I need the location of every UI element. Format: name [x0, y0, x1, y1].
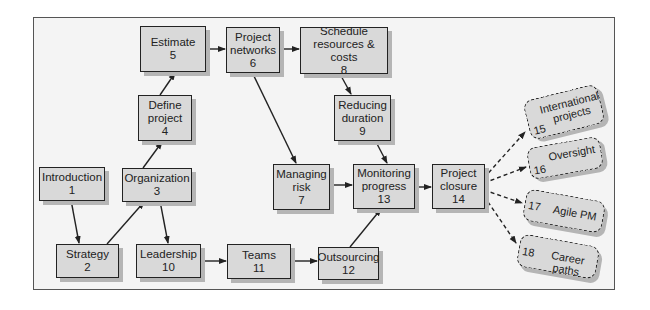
node-project-networks: Project networks 6 [226, 27, 280, 73]
node-label: Estimate [151, 36, 196, 49]
node-number: 11 [253, 262, 265, 275]
node-number: 8 [341, 64, 347, 77]
node-label-line: Schedule [320, 25, 368, 38]
node-reducing-duration: Reducing duration 9 [334, 95, 391, 141]
node-monitoring-progress: Monitoring progress 13 [353, 164, 415, 209]
node-project-closure: Project closure 14 [432, 164, 485, 209]
node-number: 7 [298, 194, 304, 207]
node-number: 10 [162, 261, 175, 274]
node-label-line: risk [293, 181, 311, 194]
node-number: 17 [528, 199, 542, 213]
node-number: 4 [162, 125, 168, 138]
node-label-line: closure [440, 180, 477, 193]
node-label: Introduction [42, 171, 102, 184]
node-schedule-resources: Schedule resources & costs 8 [300, 27, 388, 74]
node-label: Leadership [140, 248, 197, 261]
node-number: 2 [84, 261, 90, 274]
node-label-line: resources & costs [301, 38, 387, 64]
node-label-line: Define [148, 99, 181, 112]
node-number: 5 [170, 49, 176, 62]
node-label-line: networks [230, 44, 276, 57]
node-number: 9 [359, 125, 365, 138]
node-teams: Teams 11 [227, 244, 291, 279]
node-estimate: Estimate 5 [140, 26, 206, 72]
node-label-line: progress [362, 180, 407, 193]
node-label: Agile PM [552, 203, 597, 222]
node-leadership: Leadership 10 [136, 244, 201, 278]
node-managing-risk: Managing risk 7 [273, 164, 330, 210]
node-organization: Organization 3 [122, 168, 192, 202]
node-define-project: Define project 4 [138, 95, 192, 141]
node-number: 14 [452, 193, 465, 206]
node-label-line: Managing [276, 168, 327, 181]
node-label-line: Reducing [338, 99, 387, 112]
node-number: 18 [521, 245, 535, 259]
node-number: 13 [378, 193, 391, 206]
node-label-line: duration [342, 112, 384, 125]
node-outsourcing: Outsourcing 12 [318, 247, 379, 280]
node-number: 1 [69, 184, 75, 197]
node-label: Oversight [548, 143, 596, 163]
node-label-line: Monitoring [357, 167, 411, 180]
node-label: Outsourcing [318, 251, 380, 264]
node-label: Organization [124, 172, 189, 185]
node-number: 6 [250, 57, 256, 70]
node-label-line: Project [235, 31, 271, 44]
node-number: 3 [154, 185, 160, 198]
node-label: Strategy [66, 248, 109, 261]
node-strategy: Strategy 2 [56, 244, 119, 278]
node-number: 15 [532, 122, 547, 137]
node-introduction: Introduction 1 [39, 167, 105, 201]
node-label-line: Project [441, 167, 477, 180]
node-number: 16 [533, 163, 547, 177]
node-label: Teams [242, 249, 276, 262]
node-number: 12 [342, 264, 355, 277]
node-label-line: project [148, 112, 183, 125]
